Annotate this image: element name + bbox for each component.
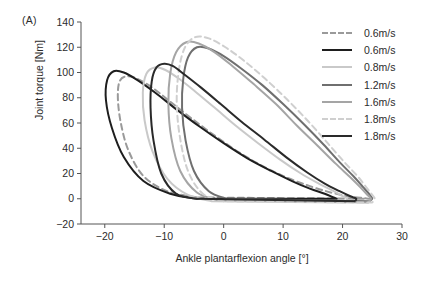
x-tick: −10 (155, 224, 173, 242)
svg-text:10: 10 (277, 230, 289, 242)
svg-text:80: 80 (62, 91, 74, 103)
legend-label: 0.6m/s (364, 44, 396, 56)
svg-text:20: 20 (337, 230, 349, 242)
svg-text:140: 140 (56, 16, 74, 28)
x-tick: −20 (96, 224, 114, 242)
svg-text:40: 40 (62, 142, 74, 154)
legend-label: 1.8m/s (364, 130, 396, 142)
svg-text:0: 0 (68, 192, 74, 204)
legend-swatch (322, 84, 352, 86)
legend-label: 1.6m/s (364, 96, 396, 108)
svg-text:20: 20 (62, 167, 74, 179)
data-series-line (182, 47, 372, 202)
y-tick: 40 (62, 142, 81, 154)
data-series-line (143, 67, 348, 202)
x-tick: 0 (221, 224, 227, 242)
svg-text:0: 0 (221, 230, 227, 242)
y-tick: 120 (56, 41, 81, 53)
plot-area: −20020406080100120140−20−100102030 (0, 0, 426, 281)
legend-swatch (322, 66, 352, 68)
legend-label: 0.8m/s (364, 61, 396, 73)
data-series-line (118, 76, 369, 199)
data-series-line (106, 71, 337, 199)
x-tick: 20 (337, 224, 349, 242)
legend-swatch (322, 49, 352, 51)
legend-swatch (322, 101, 352, 103)
svg-text:120: 120 (56, 41, 74, 53)
svg-text:30: 30 (396, 230, 408, 242)
y-tick: 80 (62, 91, 81, 103)
svg-text:60: 60 (62, 117, 74, 129)
y-tick: 0 (68, 192, 81, 204)
x-tick: 30 (396, 224, 408, 242)
svg-text:−10: −10 (155, 230, 173, 242)
legend-swatch (322, 32, 352, 34)
y-tick: 100 (56, 66, 81, 78)
legend-swatch (322, 118, 352, 120)
y-tick: 20 (62, 167, 81, 179)
figure-panel-a: (A) Joint torque [Nm] Ankle plantarflexi… (0, 0, 426, 281)
legend-swatch (322, 135, 352, 137)
legend-label: 1.8m/s (364, 113, 396, 125)
legend-label: 1.2m/s (364, 79, 396, 91)
svg-text:100: 100 (56, 66, 74, 78)
x-tick: 10 (277, 224, 289, 242)
legend-label: 0.6m/s (364, 27, 396, 39)
y-tick: 60 (62, 117, 81, 129)
svg-text:−20: −20 (56, 218, 74, 230)
y-tick: −20 (56, 218, 81, 230)
y-tick: 140 (56, 16, 81, 28)
svg-text:−20: −20 (96, 230, 114, 242)
